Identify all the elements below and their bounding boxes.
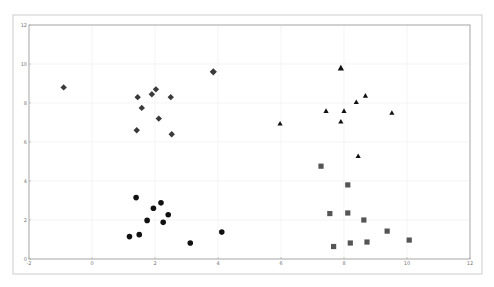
x-tick-label: 12	[467, 260, 473, 266]
triangle-marker	[338, 119, 343, 124]
circle-marker	[133, 195, 139, 201]
triangle-marker	[341, 108, 346, 113]
square-marker	[327, 211, 332, 216]
diamond-marker	[210, 68, 217, 75]
x-tick-label: 8	[342, 260, 345, 266]
diamond-marker	[149, 91, 155, 97]
square-marker	[331, 244, 336, 249]
triangle-marker	[389, 110, 394, 115]
y-tick-label: 8	[24, 100, 27, 106]
x-tick-label: 10	[404, 260, 410, 266]
square-marker	[318, 164, 323, 169]
y-tick-label: 4	[24, 178, 27, 184]
scatter-chart: -2024681012 024681012	[0, 0, 494, 287]
triangle-marker	[338, 65, 344, 71]
circle-marker	[127, 234, 133, 240]
diamond-marker	[156, 115, 162, 121]
outer-frame	[13, 15, 482, 274]
square-marker	[361, 217, 366, 222]
circle-marker	[158, 200, 164, 206]
y-tick-label: 6	[24, 139, 27, 145]
triangle-marker	[277, 121, 282, 126]
circle-marker	[187, 240, 193, 246]
x-tick-label: -2	[27, 260, 32, 266]
data-points	[60, 65, 411, 249]
grid-lines	[29, 25, 470, 259]
circle-marker	[165, 212, 171, 218]
circle-marker	[151, 206, 157, 212]
circle-marker	[160, 220, 166, 226]
x-tick-label: 4	[216, 260, 219, 266]
diamond-marker	[153, 86, 159, 92]
square-marker	[345, 210, 350, 215]
triangle-marker	[363, 93, 368, 98]
y-tick-label: 2	[24, 217, 27, 223]
circle-marker	[136, 232, 142, 238]
square-marker	[345, 182, 350, 187]
square-marker	[364, 239, 369, 244]
square-marker	[385, 229, 390, 234]
diamond-marker	[168, 94, 174, 100]
diamond-marker	[134, 94, 140, 100]
diamond-marker	[139, 105, 145, 111]
x-tick-label: 0	[90, 260, 93, 266]
x-tick-label: 6	[279, 260, 282, 266]
triangle-marker	[356, 153, 361, 158]
triangle-marker	[323, 108, 328, 113]
x-tick-label: 2	[153, 260, 156, 266]
diamond-marker	[168, 131, 174, 137]
x-axis-ticks: -2024681012	[27, 257, 474, 266]
diamond-marker	[60, 84, 66, 90]
circle-marker	[219, 229, 225, 235]
y-tick-label: 12	[21, 22, 27, 28]
triangle-marker	[354, 99, 359, 104]
circle-marker	[144, 218, 150, 224]
y-tick-label: 10	[21, 61, 27, 67]
diamond-marker	[134, 127, 140, 133]
square-marker	[348, 240, 353, 245]
y-tick-label: 0	[24, 256, 27, 262]
square-marker	[407, 237, 412, 242]
